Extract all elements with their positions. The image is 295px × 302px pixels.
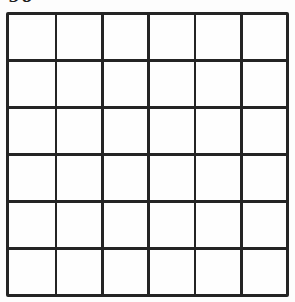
grid-cell <box>104 15 148 59</box>
grid-cell <box>104 250 148 294</box>
grid-cell <box>196 62 240 106</box>
grid-cell <box>57 156 101 200</box>
grid-cell <box>104 62 148 106</box>
grid-cell <box>9 109 55 153</box>
grid-cell <box>9 203 55 247</box>
grid-cell <box>9 15 55 59</box>
grid-cell <box>104 109 148 153</box>
grid-cell <box>243 250 287 294</box>
grid-cell <box>57 203 101 247</box>
grid-cell <box>104 203 148 247</box>
grid-cell <box>9 62 55 106</box>
grid-cell <box>150 15 194 59</box>
grid-label: 90 <box>9 0 35 5</box>
grid-cell <box>243 62 287 106</box>
grid-cell <box>150 250 194 294</box>
grid-cell <box>196 250 240 294</box>
grid-cell <box>196 203 240 247</box>
grid-cell <box>150 203 194 247</box>
grid-cell <box>150 156 194 200</box>
grid-cell <box>57 62 101 106</box>
six-by-six-grid <box>6 12 289 297</box>
grid-cell <box>150 62 194 106</box>
grid-cell <box>57 15 101 59</box>
grid-cell <box>243 156 287 200</box>
grid-cell <box>243 15 287 59</box>
grid-cell <box>150 109 194 153</box>
grid-cell <box>243 203 287 247</box>
grid-cell <box>57 109 101 153</box>
grid-cell <box>9 250 55 294</box>
grid-cell <box>243 109 287 153</box>
grid-cell <box>196 109 240 153</box>
grid-cell <box>196 156 240 200</box>
grid-cell <box>104 156 148 200</box>
grid-cell <box>196 15 240 59</box>
grid-cell <box>57 250 101 294</box>
grid-cell <box>9 156 55 200</box>
scanned-worksheet-page: 90 <box>0 0 295 302</box>
